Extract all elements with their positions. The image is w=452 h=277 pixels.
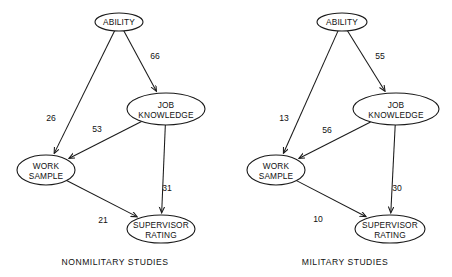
node-military-ability: ABILITY xyxy=(317,13,367,31)
node-label2-nonmilitary-job: KNOWLEDGE xyxy=(138,110,194,120)
path-coefficient-military-job-work: 56 xyxy=(322,125,332,135)
path-coefficient-nonmilitary-job-super: 31 xyxy=(162,183,172,193)
node-label-nonmilitary-job: JOB xyxy=(158,100,175,110)
path-arrow-nonmilitary-ability-work xyxy=(54,31,114,153)
diagram-canvas: ABILITYJOBKNOWLEDGEWORKSAMPLESUPERVISORR… xyxy=(0,0,452,277)
path-arrow-nonmilitary-job-work xyxy=(69,121,141,158)
path-diagram-figure: ABILITYJOBKNOWLEDGEWORKSAMPLESUPERVISORR… xyxy=(0,0,452,277)
node-label-nonmilitary-ability: ABILITY xyxy=(103,17,135,27)
captions-layer: NONMILITARY STUDIESMILITARY STUDIES xyxy=(62,257,389,267)
edges-layer xyxy=(54,31,395,217)
path-arrow-military-work-super xyxy=(297,181,366,217)
path-coefficient-military-job-super: 30 xyxy=(392,183,402,193)
path-coefficient-military-ability-work: 13 xyxy=(279,113,289,123)
node-label2-military-supervisor: RATING xyxy=(374,230,406,240)
path-coefficient-military-work-super: 10 xyxy=(313,214,323,224)
node-label-nonmilitary-work: WORK xyxy=(33,161,60,171)
node-nonmilitary-job: JOBKNOWLEDGE xyxy=(127,93,205,125)
path-coefficient-nonmilitary-job-work: 53 xyxy=(92,124,102,134)
nodes-layer: ABILITYJOBKNOWLEDGEWORKSAMPLESUPERVISORR… xyxy=(17,13,439,243)
path-coefficient-nonmilitary-ability-job: 66 xyxy=(150,51,160,61)
panel-caption-military: MILITARY STUDIES xyxy=(302,257,388,267)
panel-caption-nonmilitary: NONMILITARY STUDIES xyxy=(62,257,169,267)
node-nonmilitary-ability: ABILITY xyxy=(95,13,143,31)
node-label-nonmilitary-supervisor: SUPERVISOR xyxy=(133,220,189,230)
node-label2-nonmilitary-supervisor: RATING xyxy=(145,230,177,240)
node-label2-nonmilitary-work: SAMPLE xyxy=(29,171,64,181)
node-military-work: WORKSAMPLE xyxy=(247,155,305,185)
path-arrow-military-job-super xyxy=(391,125,395,213)
node-military-supervisor: SUPERVISORRATING xyxy=(355,215,425,243)
node-nonmilitary-work: WORKSAMPLE xyxy=(17,155,75,185)
node-label-military-work: WORK xyxy=(263,161,290,171)
node-military-job: JOBKNOWLEDGE xyxy=(353,93,439,125)
path-arrow-military-job-work xyxy=(299,122,370,158)
path-coefficient-nonmilitary-ability-work: 26 xyxy=(46,113,56,123)
edge-labels-layer: 26665331211355563010 xyxy=(46,51,402,225)
node-label-military-supervisor: SUPERVISOR xyxy=(362,220,418,230)
node-nonmilitary-supervisor: SUPERVISORRATING xyxy=(127,215,195,243)
path-coefficient-military-ability-job: 55 xyxy=(375,51,385,61)
path-coefficient-nonmilitary-work-super: 21 xyxy=(98,215,108,225)
node-label2-military-job: KNOWLEDGE xyxy=(368,110,424,120)
node-label2-military-work: SAMPLE xyxy=(259,171,294,181)
path-arrow-nonmilitary-job-super xyxy=(162,125,166,213)
node-label-military-job: JOB xyxy=(388,100,405,110)
path-arrow-nonmilitary-work-super xyxy=(67,181,137,217)
node-label-military-ability: ABILITY xyxy=(326,17,358,27)
